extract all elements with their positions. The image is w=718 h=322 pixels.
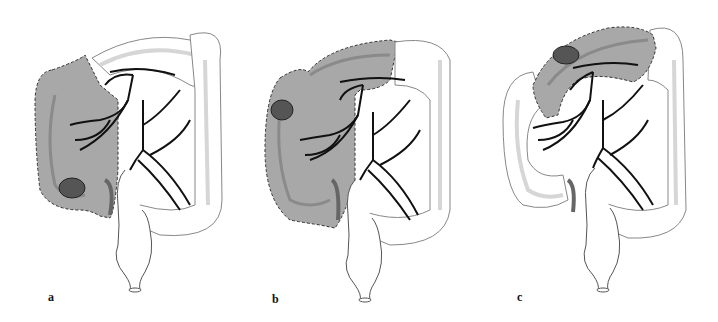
tumor — [553, 46, 579, 64]
panel-c: c — [478, 0, 718, 322]
colon-diagram-c — [478, 0, 718, 322]
sigmoid-rectum — [346, 180, 382, 300]
colon-diagram-b — [240, 0, 480, 322]
panel-a: a — [0, 0, 240, 322]
colon-diagram-a — [0, 0, 240, 322]
tumor — [59, 178, 85, 198]
panel-b: b — [240, 0, 480, 322]
panel-label-c: c — [517, 290, 522, 305]
panel-label-a: a — [48, 290, 54, 305]
panel-label-b: b — [272, 292, 279, 307]
sigmoid-rectum — [116, 170, 152, 290]
sigmoid-rectum — [584, 168, 620, 290]
tumor — [271, 100, 293, 120]
